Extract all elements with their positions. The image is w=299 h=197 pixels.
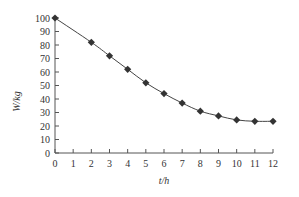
data-point <box>142 79 149 86</box>
x-tick-label: 5 <box>143 158 148 169</box>
x-tick-label: 4 <box>125 158 130 169</box>
x-tick-label: 9 <box>216 158 221 169</box>
y-tick-label: 30 <box>40 107 50 118</box>
y-tick-label: 20 <box>40 121 50 132</box>
line-chart: 0102030405060708090100 0123456789101112 … <box>0 0 299 197</box>
data-point <box>269 118 276 125</box>
series-line <box>55 18 273 121</box>
y-axis-label: W/kg <box>11 91 22 112</box>
data-point <box>160 90 167 97</box>
x-tick-label: 10 <box>232 158 242 169</box>
x-tick-label: 7 <box>180 158 185 169</box>
y-tick-label: 70 <box>40 53 50 64</box>
data-point <box>233 116 240 123</box>
data-point <box>51 14 58 21</box>
y-tick-label: 80 <box>40 40 50 51</box>
plot-area <box>51 14 276 124</box>
y-tick-label: 100 <box>35 13 50 24</box>
data-point <box>197 108 204 115</box>
y-tick-label: 40 <box>40 94 50 105</box>
x-tick-label: 8 <box>198 158 203 169</box>
y-tick-label: 50 <box>40 80 50 91</box>
data-point <box>88 39 95 46</box>
x-tick-label: 3 <box>107 158 112 169</box>
x-tick-label: 6 <box>162 158 167 169</box>
x-tick-label: 1 <box>71 158 76 169</box>
y-axis: 0102030405060708090100 <box>35 13 59 159</box>
x-tick-label: 2 <box>89 158 94 169</box>
y-tick-label: 90 <box>40 26 50 37</box>
y-tick-label: 60 <box>40 67 50 78</box>
x-axis: 0123456789101112 <box>53 149 279 169</box>
data-point <box>179 99 186 106</box>
x-tick-label: 12 <box>268 158 278 169</box>
x-axis-label: t/h <box>159 175 170 186</box>
x-tick-label: 11 <box>250 158 260 169</box>
x-tick-label: 0 <box>53 158 58 169</box>
y-tick-label: 0 <box>45 148 50 159</box>
data-point <box>215 112 222 119</box>
data-point <box>251 118 258 125</box>
y-tick-label: 10 <box>40 134 50 145</box>
